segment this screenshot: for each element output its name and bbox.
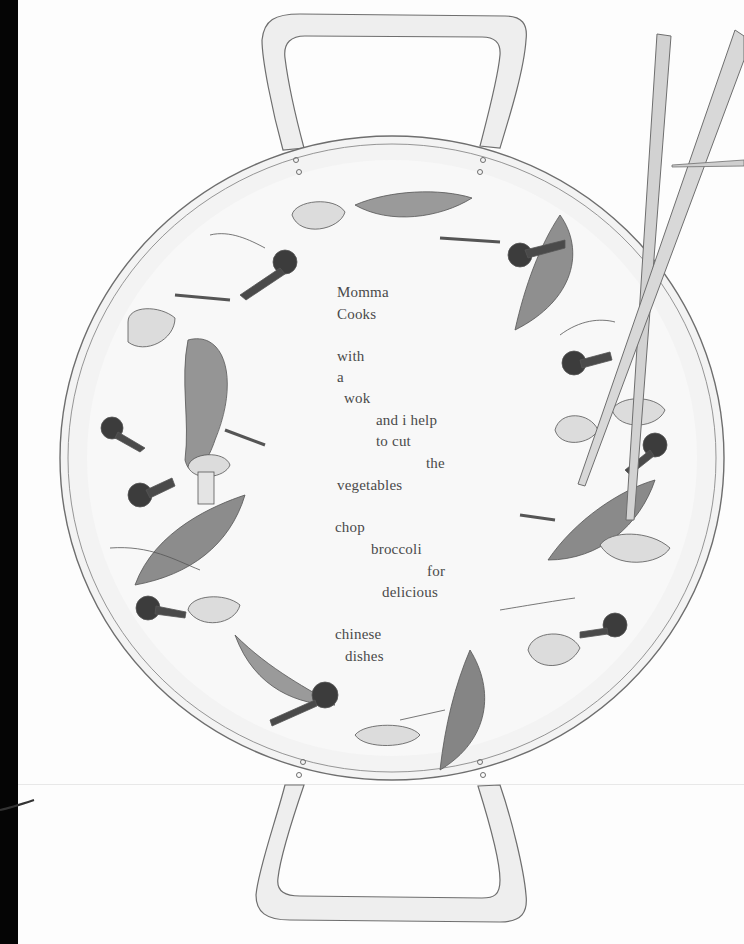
wok-illustration bbox=[0, 0, 744, 944]
wok-bottom-handle bbox=[256, 785, 526, 922]
wok-top-handle bbox=[262, 14, 526, 150]
wok-body bbox=[60, 136, 724, 780]
ink-mark bbox=[0, 800, 34, 810]
